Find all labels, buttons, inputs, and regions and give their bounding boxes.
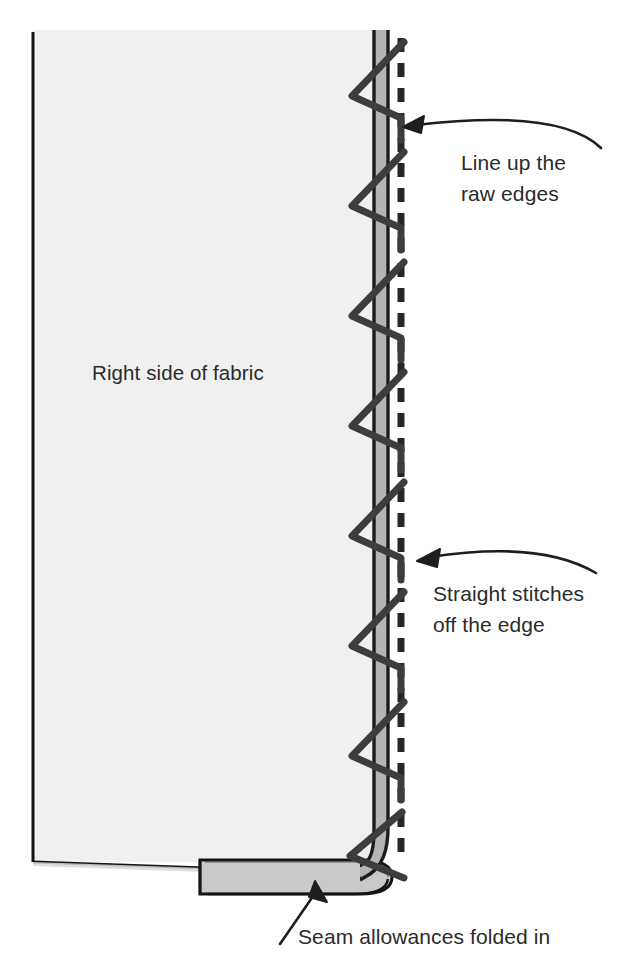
label-line-up-raw-edges: Line up the raw edges	[461, 147, 566, 209]
fabric-panel	[33, 30, 374, 876]
label-straight-stitches-line2: off the edge	[433, 613, 545, 636]
label-straight-stitches-off-edge: Straight stitches off the edge	[433, 578, 584, 640]
diagram-canvas: Right side of fabric Line up the raw edg…	[0, 0, 635, 975]
label-line-up-raw-edges-line2: raw edges	[461, 182, 559, 205]
raw-edges-arrow	[403, 116, 601, 148]
label-right-side-of-fabric: Right side of fabric	[92, 357, 264, 388]
label-straight-stitches-line1: Straight stitches	[433, 582, 584, 605]
label-seam-allowances-folded-in: Seam allowances folded in	[298, 921, 550, 952]
straight-stitches-arrow	[417, 549, 596, 573]
label-line-up-raw-edges-line1: Line up the	[461, 151, 566, 174]
